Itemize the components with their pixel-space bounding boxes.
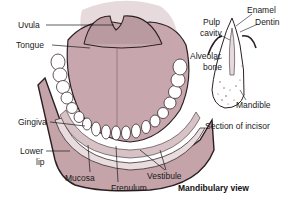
gum-line-right [242,36,256,48]
label-enamel: Enamel [247,5,276,15]
label-dentin: Dentin [255,17,280,27]
label-pulp-line2: cavity [200,28,222,38]
label-alveolar-line2: bone [203,62,222,72]
label-lower-lip-line2: lip [36,157,45,167]
label-vestibule: Vestibule [147,171,182,181]
label-frenulum: Frenulum [111,183,147,193]
incisor-caption: Section of incisor [205,121,270,131]
label-pulp-line1: Pulp [203,17,220,27]
label-uvula: Uvula [18,20,40,30]
label-alveolar-line1: Alveolar [190,51,221,61]
label-lower-lip-line1: Lower [20,146,43,156]
label-gingiva: Gingiva [18,117,47,127]
label-tongue: Tongue [16,40,44,50]
label-mucosa: Mucosa [65,173,95,183]
diagram-title: Mandibulary view [178,183,249,193]
label-mandible: Mandible [236,100,271,110]
